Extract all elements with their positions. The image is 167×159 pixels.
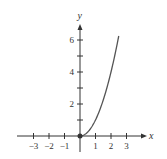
y-axis-arrow-icon (78, 24, 83, 30)
function-plot: xy−3−2−1123246 (0, 0, 167, 159)
x-tick-label: 1 (93, 141, 98, 151)
y-tick-label: 4 (70, 67, 75, 77)
y-tick-label: 6 (70, 35, 75, 45)
y-axis-label: y (77, 10, 83, 21)
function-curve (80, 36, 119, 136)
x-axis-label: x (148, 130, 154, 141)
x-axis-arrow-icon (141, 134, 147, 139)
x-tick-label: 3 (124, 141, 129, 151)
x-tick-label: −1 (60, 141, 70, 151)
x-tick-label: −3 (29, 141, 39, 151)
start-point-dot (78, 134, 83, 139)
x-tick-label: 2 (109, 141, 114, 151)
y-tick-label: 2 (70, 99, 75, 109)
x-tick-label: −2 (44, 141, 54, 151)
